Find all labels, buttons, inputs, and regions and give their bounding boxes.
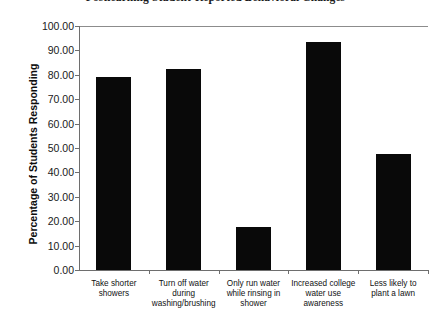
y-axis-tick-label: 80.00 xyxy=(14,69,74,81)
x-axis-category-label: Turn off waterduringwashing/brushing xyxy=(149,279,219,309)
x-axis-category-label-line: showers xyxy=(79,289,149,299)
x-axis-tick-mark xyxy=(358,270,359,274)
y-axis-tick-mark xyxy=(75,75,79,76)
y-axis-tick-mark xyxy=(75,99,79,100)
plot-top-rule xyxy=(79,26,428,27)
x-axis-category-label: Increased collegewater useawareness xyxy=(288,279,358,309)
chart-title: Postlearning Student-Reported Behavioral… xyxy=(0,0,431,3)
y-axis-tick-mark xyxy=(75,270,79,271)
plot-area xyxy=(79,26,428,270)
y-axis-tick-label: 10.00 xyxy=(14,240,74,252)
y-axis-tick-label: 100.00 xyxy=(14,20,74,32)
x-axis-category-label-line: awareness xyxy=(288,299,358,309)
y-axis-tick-mark xyxy=(75,197,79,198)
x-axis-category-label-line: Only run water xyxy=(219,279,289,289)
x-axis-tick-mark xyxy=(428,270,429,274)
y-axis-tick-mark xyxy=(75,246,79,247)
bar xyxy=(376,154,411,270)
y-axis-tick-mark xyxy=(75,50,79,51)
y-axis-tick-mark xyxy=(75,124,79,125)
y-axis-tick-mark xyxy=(75,26,79,27)
y-axis-tick-label: 70.00 xyxy=(14,93,74,105)
x-axis-category-label: Take shortershowers xyxy=(79,279,149,299)
y-axis-tick-mark xyxy=(75,221,79,222)
y-axis-tick-label: 20.00 xyxy=(14,215,74,227)
x-axis-category-label: Less likely toplant a lawn xyxy=(358,279,428,299)
bar xyxy=(166,69,201,270)
x-axis-category-label-line: Less likely to xyxy=(358,279,428,289)
y-axis-tick-label: 60.00 xyxy=(14,118,74,130)
y-axis-tick-label: 30.00 xyxy=(14,191,74,203)
y-axis-tick-mark xyxy=(75,148,79,149)
x-axis-tick-mark xyxy=(288,270,289,274)
bar xyxy=(306,42,341,270)
x-axis-line xyxy=(79,270,428,271)
y-axis-tick-label: 40.00 xyxy=(14,166,74,178)
x-axis-category-label-line: water use xyxy=(288,289,358,299)
x-axis-category-label-line: Increased college xyxy=(288,279,358,289)
x-axis-category-label: Only run waterwhile rinsing inshower xyxy=(219,279,289,309)
x-axis-category-label-line: while rinsing in xyxy=(219,289,289,299)
x-axis-category-label-line: shower xyxy=(219,299,289,309)
x-axis-category-label-line: Turn off water xyxy=(149,279,219,289)
bar-chart-figure: Postlearning Student-Reported Behavioral… xyxy=(0,0,431,313)
x-axis-category-label-line: plant a lawn xyxy=(358,289,428,299)
x-axis-category-label-line: Take shorter xyxy=(79,279,149,289)
x-axis-tick-mark xyxy=(149,270,150,274)
y-axis-tick-label: 50.00 xyxy=(14,142,74,154)
y-axis-tick-mark xyxy=(75,172,79,173)
x-axis-category-label-line: during xyxy=(149,289,219,299)
bar xyxy=(236,227,271,270)
bar xyxy=(96,77,131,270)
y-axis-line xyxy=(79,26,80,271)
y-axis-tick-label: 0.00 xyxy=(14,264,74,276)
x-axis-tick-mark xyxy=(219,270,220,274)
x-axis-category-label-line: washing/brushing xyxy=(149,299,219,309)
y-axis-tick-label: 90.00 xyxy=(14,44,74,56)
